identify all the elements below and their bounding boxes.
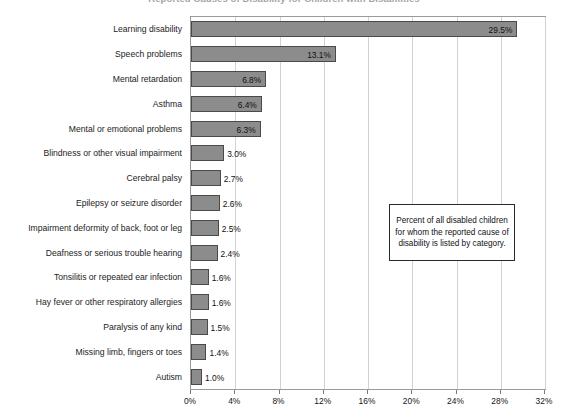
bar-value-label: 29.5% — [489, 23, 513, 37]
bar-row: 1.5% — [191, 319, 208, 335]
annotation-text: Percent of all disabled children for who… — [395, 215, 509, 249]
x-axis-tick — [190, 390, 191, 394]
x-axis-tick — [367, 390, 368, 394]
bar-row: 6.4% — [191, 96, 262, 112]
category-label: Blindness or other visual impairment — [43, 148, 182, 158]
category-label: Missing limb, fingers or toes — [75, 347, 182, 357]
category-label: Cerebral palsy — [127, 173, 182, 183]
bar-value-label: 1.4% — [209, 346, 228, 360]
bar-row: 1.4% — [191, 344, 206, 360]
category-label: Learning disability — [113, 24, 182, 34]
category-label: Mental retardation — [113, 74, 182, 84]
bar-row: 1.0% — [191, 369, 202, 385]
bar: 6.8% — [191, 71, 266, 87]
x-axis-tick — [456, 390, 457, 394]
bar: 2.5% — [191, 220, 219, 236]
x-axis-tick-label: 32% — [536, 396, 553, 406]
x-axis-tick — [279, 390, 280, 394]
x-axis-tick — [500, 390, 501, 394]
x-axis-tick — [411, 390, 412, 394]
x-axis-tick — [234, 390, 235, 394]
category-label: Hay fever or other respiratory allergies — [36, 297, 182, 307]
category-label: Impairment deformity of back, foot or le… — [28, 223, 182, 233]
x-axis-tick-label: 12% — [314, 396, 331, 406]
category-label: Autism — [156, 372, 182, 382]
category-axis-labels: Learning disabilitySpeech problemsMental… — [0, 16, 186, 390]
bar: 1.0% — [191, 369, 202, 385]
bar-chart: Reported Causes of Disability for Childr… — [0, 0, 568, 418]
bar-row: 1.6% — [191, 269, 209, 285]
bar-value-label: 1.0% — [205, 371, 224, 385]
x-axis-tick-label: 24% — [447, 396, 464, 406]
bar-value-label: 2.5% — [222, 222, 241, 236]
bar: 6.3% — [191, 121, 261, 137]
bar: 13.1% — [191, 46, 336, 62]
x-axis-tick-label: 20% — [403, 396, 420, 406]
bar-row: 6.3% — [191, 121, 261, 137]
bar-value-label: 1.5% — [211, 321, 230, 335]
bar-value-label: 2.6% — [223, 197, 242, 211]
category-label: Epilepsy or seizure disorder — [76, 198, 182, 208]
bar-value-label: 2.7% — [224, 172, 243, 186]
x-axis-tick-label: 16% — [359, 396, 376, 406]
bar-value-label: 6.3% — [237, 123, 256, 137]
category-label: Speech problems — [115, 49, 182, 59]
bar: 2.7% — [191, 170, 221, 186]
bar: 1.5% — [191, 319, 208, 335]
bar-value-label: 1.6% — [212, 296, 231, 310]
bar: 1.6% — [191, 294, 209, 310]
bar-row: 2.7% — [191, 170, 221, 186]
bar-value-label: 6.8% — [242, 73, 261, 87]
x-axis-tick-label: 28% — [491, 396, 508, 406]
bar-row: 2.4% — [191, 245, 218, 261]
x-axis: 0%4%8%12%16%20%24%28%32% — [190, 390, 546, 416]
bar-row: 2.6% — [191, 195, 220, 211]
bar: 1.4% — [191, 344, 206, 360]
x-axis-tick-label: 4% — [228, 396, 240, 406]
category-label: Asthma — [153, 99, 182, 109]
bar-value-label: 1.6% — [212, 271, 231, 285]
bar-row: 13.1% — [191, 46, 336, 62]
x-axis-tick-label: 0% — [184, 396, 196, 406]
bars-layer: 29.5%13.1%6.8%6.4%6.3%3.0%2.7%2.6%2.5%2.… — [191, 17, 545, 389]
x-axis-tick — [323, 390, 324, 394]
bar-value-label: 2.4% — [221, 247, 240, 261]
bar-row: 29.5% — [191, 21, 517, 37]
bar: 1.6% — [191, 269, 209, 285]
bar: 2.6% — [191, 195, 220, 211]
bar-value-label: 3.0% — [227, 147, 246, 161]
gridline — [545, 17, 546, 389]
x-axis-tick — [544, 390, 545, 394]
bar-row: 3.0% — [191, 145, 224, 161]
bar: 2.4% — [191, 245, 218, 261]
bar: 29.5% — [191, 21, 517, 37]
bar-row: 2.5% — [191, 220, 219, 236]
x-axis-tick-label: 8% — [272, 396, 284, 406]
bar-value-label: 6.4% — [238, 98, 257, 112]
category-label: Mental or emotional problems — [69, 124, 182, 134]
category-label: Tonsilitis or repeated ear infection — [54, 272, 182, 282]
bar: 3.0% — [191, 145, 224, 161]
bar-row: 1.6% — [191, 294, 209, 310]
chart-title: Reported Causes of Disability for Childr… — [0, 0, 568, 4]
bar-row: 6.8% — [191, 71, 266, 87]
bar-value-label: 13.1% — [307, 48, 331, 62]
category-label: Deafness or serious trouble hearing — [46, 248, 182, 258]
bar: 6.4% — [191, 96, 262, 112]
category-label: Paralysis of any kind — [103, 322, 182, 332]
annotation-callout: Percent of all disabled children for who… — [389, 204, 515, 261]
